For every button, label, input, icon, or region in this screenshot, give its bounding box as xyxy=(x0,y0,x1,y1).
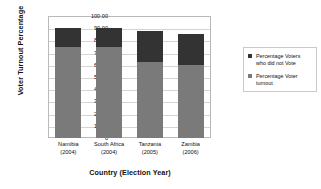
bar-segment[interactable] xyxy=(55,47,81,139)
bar-segment[interactable] xyxy=(137,31,163,63)
voter-turnout-chart: Voter Turnout Percentage 100.0090.0080.0… xyxy=(0,0,321,189)
x-tick-line: Tanzania xyxy=(139,141,161,147)
bar-segment[interactable] xyxy=(96,28,122,46)
legend-label: Percentage Voter turnout xyxy=(256,73,298,86)
x-axis-tick-label: Tanzania(2005) xyxy=(130,141,171,156)
bar-column[interactable] xyxy=(178,16,204,138)
bar-segment[interactable] xyxy=(178,65,204,138)
x-tick-line: (2004) xyxy=(101,149,117,155)
legend-item-voter-turnout: Percentage Voter turnout xyxy=(246,73,313,86)
y-axis-title: Voter Turnout Percentage xyxy=(16,0,25,111)
legend-swatch-icon xyxy=(248,54,252,58)
bar-segment[interactable] xyxy=(96,47,122,139)
legend-swatch-icon xyxy=(248,74,252,78)
legend-label-line-2: turnout xyxy=(256,80,273,86)
x-tick-line: Zambia xyxy=(181,141,200,147)
bar-column[interactable] xyxy=(96,16,122,138)
x-axis-title: Country (Election Year) xyxy=(40,168,220,177)
bar-segment[interactable] xyxy=(137,62,163,138)
bar-column[interactable] xyxy=(137,16,163,138)
bar-segment[interactable] xyxy=(55,28,81,46)
x-axis-tick-label: Namibia(2004) xyxy=(48,141,89,156)
legend-label-line-1: Percentage Voter xyxy=(256,73,298,79)
x-axis-tick-labels: Namibia(2004)South Africa(2004)Tanzania(… xyxy=(48,141,211,156)
bar-series-layer xyxy=(48,16,211,138)
x-tick-line: (2005) xyxy=(142,149,158,155)
chart-legend: Percentage Voters who did not Vote Perce… xyxy=(243,47,317,92)
x-tick-line: (2006) xyxy=(183,149,199,155)
x-axis-tick-label: Zambia(2006) xyxy=(170,141,211,156)
x-tick-line: (2004) xyxy=(60,149,76,155)
x-axis-tick-label: South Africa(2004) xyxy=(89,141,130,156)
bar-column[interactable] xyxy=(55,16,81,138)
legend-label-line-1: Percentage Voters xyxy=(256,53,300,59)
bar-segment[interactable] xyxy=(178,34,204,65)
legend-item-did-not-vote: Percentage Voters who did not Vote xyxy=(246,53,313,66)
x-tick-line: Namibia xyxy=(58,141,79,147)
legend-label-line-2: who did not Vote xyxy=(256,60,296,66)
x-tick-line: South Africa xyxy=(94,141,124,147)
legend-label: Percentage Voters who did not Vote xyxy=(256,53,300,66)
